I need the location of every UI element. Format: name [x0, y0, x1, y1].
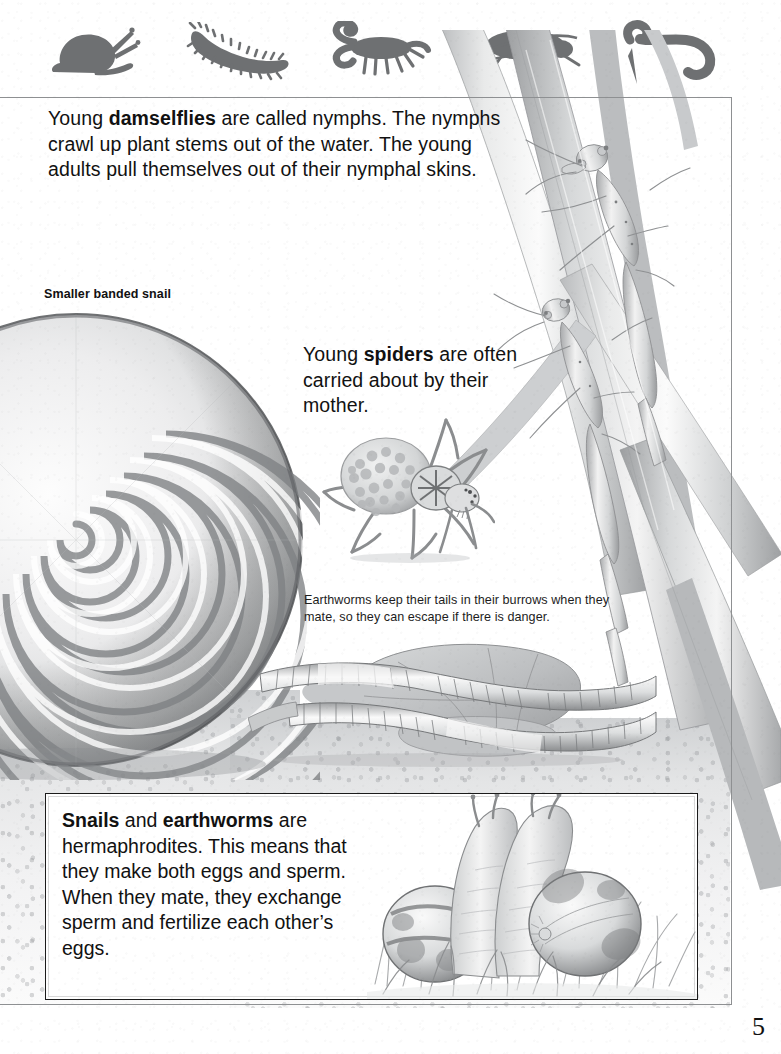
- hermaphrodite-callout-box: Snails and earthworms are hermaphrodites…: [45, 793, 698, 1000]
- snail-caption: Smaller banded snail: [44, 287, 171, 301]
- callout-keyword-earthworms: earthworms: [163, 809, 274, 831]
- earthworm-caption: Earthworms keep their tails in their bur…: [304, 592, 634, 625]
- centipede-silhouette: [185, 22, 305, 82]
- callout-keyword-snails: Snails: [62, 809, 119, 831]
- damselfly-text-block: Young damselflies are called nymphs. The…: [48, 106, 518, 183]
- spider-text-block: Young spiders are often carried about by…: [303, 342, 518, 419]
- book-page: Young damselflies are called nymphs. The…: [0, 0, 781, 1054]
- scorpion-silhouette: [324, 21, 434, 79]
- callout-mid: and: [119, 809, 162, 831]
- callout-text-block: Snails and earthworms are hermaphrodites…: [62, 808, 362, 961]
- page-number: 5: [752, 1012, 765, 1042]
- snail-silhouette: [48, 24, 166, 79]
- spider-pre: Young: [303, 343, 364, 365]
- spider-keyword: spiders: [364, 343, 434, 365]
- mating-earthworms: [248, 640, 658, 770]
- damselfly-line1-pre: Young: [48, 107, 109, 129]
- mating-snails-in-grass: [367, 794, 697, 999]
- damselfly-line1-post: are called nymphs.: [216, 107, 387, 129]
- callout-post: are hermaphrodites. This means that they…: [62, 809, 347, 959]
- damselfly-keyword: damselflies: [109, 107, 216, 129]
- wolf-spider-with-spiderlings: [310, 412, 495, 564]
